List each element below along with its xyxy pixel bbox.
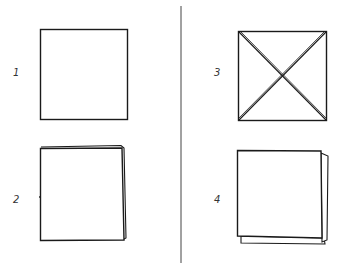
folding-diagram — [0, 0, 338, 263]
step-1-figure — [41, 30, 128, 120]
step-2-figure — [39, 146, 126, 241]
step-2-label: 2 — [13, 194, 19, 205]
step-3-label: 3 — [214, 67, 220, 78]
step-4-figure — [238, 151, 329, 245]
step-3-figure — [239, 32, 327, 121]
step-1-label: 1 — [13, 67, 19, 78]
step-4-label: 4 — [214, 194, 220, 205]
